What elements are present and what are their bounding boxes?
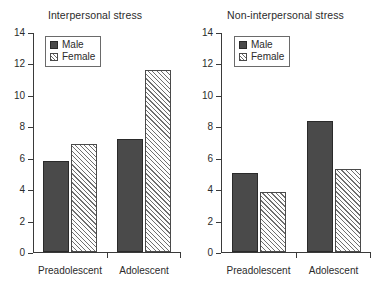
x-axis-category-label: Preadolescent	[227, 265, 291, 276]
legend-swatch-female-icon	[239, 53, 247, 61]
bar-female-adolescent	[145, 70, 171, 252]
y-axis-tick-label: 12	[202, 59, 213, 69]
x-axis-end-tick	[180, 253, 181, 258]
y-axis-tick	[216, 96, 221, 97]
bar-chart-figure: Interpersonal stress 02468101214Preadole…	[0, 0, 381, 292]
y-axis-tick-label: 4	[19, 185, 25, 195]
panel-title: Non-interpersonal stress	[190, 9, 381, 21]
y-axis-tick-label: 10	[14, 91, 25, 101]
y-axis-tick	[216, 159, 221, 160]
legend-label-female: Female	[251, 52, 284, 62]
legend-1: Male Female	[234, 36, 290, 67]
y-axis-tick-label: 6	[207, 154, 213, 164]
y-axis-tick-label: 14	[14, 28, 25, 38]
y-axis-tick	[216, 190, 221, 191]
y-axis-line	[221, 33, 222, 253]
y-axis-line	[33, 33, 34, 253]
y-axis-tick-label: 2	[207, 217, 213, 227]
y-axis-tick-label: 10	[202, 91, 213, 101]
legend-swatch-male-icon	[50, 41, 58, 49]
y-axis-tick	[28, 190, 33, 191]
y-axis-tick-label: 14	[202, 28, 213, 38]
y-axis-tick-label: 0	[207, 248, 213, 258]
bar-male-adolescent	[117, 139, 143, 252]
y-axis-tick	[28, 96, 33, 97]
y-axis-tick-label: 2	[19, 217, 25, 227]
y-axis-tick	[28, 127, 33, 128]
x-axis-category-label: Adolescent	[119, 265, 168, 276]
x-axis-group-separator	[296, 253, 297, 258]
legend-entry-female: Female	[50, 51, 95, 63]
legend-swatch-female-icon	[50, 53, 58, 61]
chart-panel-interpersonal: Interpersonal stress 02468101214Preadole…	[0, 0, 190, 292]
bar-male-adolescent	[307, 121, 333, 252]
legend-swatch-male-icon	[239, 41, 247, 49]
y-axis-tick	[216, 127, 221, 128]
y-axis-tick-label: 6	[19, 154, 25, 164]
y-axis-tick-label: 8	[19, 122, 25, 132]
legend-entry-female: Female	[239, 51, 284, 63]
x-axis-category-label: Preadolescent	[38, 265, 102, 276]
legend-0: Male Female	[45, 36, 101, 67]
legend-entry-male: Male	[50, 39, 95, 51]
legend-label-male: Male	[251, 40, 273, 50]
y-axis-tick-label: 12	[14, 59, 25, 69]
bar-male-preadolescent	[43, 161, 69, 252]
bar-female-preadolescent	[260, 192, 286, 253]
y-axis-tick	[28, 33, 33, 34]
legend-label-female: Female	[62, 52, 95, 62]
panel-title: Interpersonal stress	[0, 9, 190, 21]
chart-panel-non-interpersonal: Non-interpersonal stress 02468101214Prea…	[190, 0, 381, 292]
legend-entry-male: Male	[239, 39, 284, 51]
y-axis-tick	[28, 222, 33, 223]
y-axis-tick-label: 8	[207, 122, 213, 132]
y-axis-tick	[216, 64, 221, 65]
y-axis-tick	[28, 253, 33, 254]
y-axis-tick	[216, 33, 221, 34]
x-axis-category-label: Adolescent	[309, 265, 358, 276]
bar-female-preadolescent	[71, 144, 97, 252]
y-axis-tick-label: 4	[207, 185, 213, 195]
y-axis-tick	[216, 253, 221, 254]
legend-label-male: Male	[62, 40, 84, 50]
x-axis-group-separator	[107, 253, 108, 258]
y-axis-tick	[28, 64, 33, 65]
bar-male-preadolescent	[232, 173, 258, 252]
bar-female-adolescent	[335, 169, 361, 252]
x-axis-end-tick	[370, 253, 371, 258]
y-axis-tick	[216, 222, 221, 223]
y-axis-tick	[28, 159, 33, 160]
y-axis-tick-label: 0	[19, 248, 25, 258]
